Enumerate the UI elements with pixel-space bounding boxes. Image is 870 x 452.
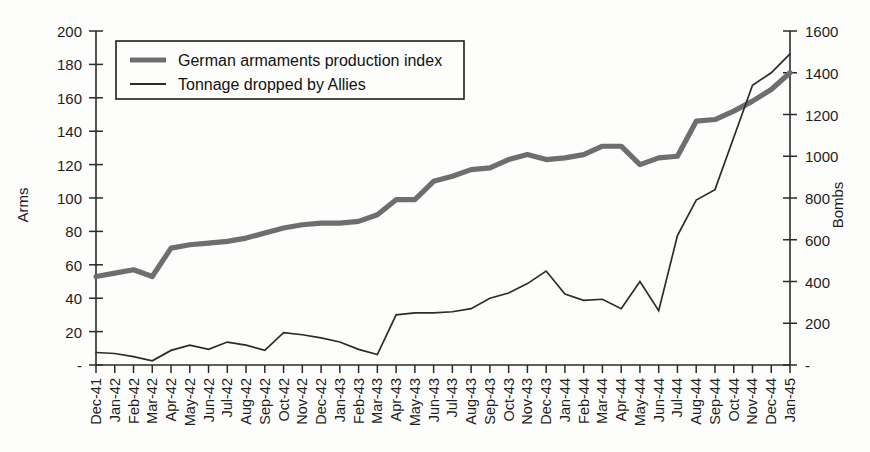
legend-label-bombs: Tonnage dropped by Allies	[178, 76, 366, 93]
legend-label-arms: German armaments production index	[178, 52, 442, 69]
y-tick-label-right: 1600	[805, 23, 838, 40]
y-tick-label-left: 100	[57, 190, 82, 207]
y-tick-label-left: 180	[57, 56, 82, 73]
x-tick-label: Aug-44	[688, 378, 704, 425]
x-tick-label: Jan-42	[107, 378, 123, 422]
x-tick-label: Mar-42	[144, 378, 160, 424]
x-tick-label: Nov-43	[519, 378, 535, 425]
series-lines	[96, 54, 790, 361]
x-tick-label: Jan-45	[782, 378, 798, 422]
y-tick-label-right: 200	[805, 315, 830, 332]
y-tick-label-left: 60	[65, 257, 82, 274]
x-tick-label: Sep-43	[482, 378, 498, 425]
x-tick-label: May-43	[407, 378, 423, 426]
x-tick-label: Feb-43	[351, 378, 367, 424]
x-tick-label: Jun-42	[201, 378, 217, 422]
x-tick-label: May-44	[632, 378, 648, 426]
x-tick-label: Nov-44	[744, 378, 760, 425]
y-tick-label-right: 1000	[805, 148, 838, 165]
series-line-arms	[96, 73, 790, 277]
x-tick-label: Dec-43	[538, 378, 554, 425]
x-tick-label: Jul-42	[219, 378, 235, 418]
y-tick-label-left: 160	[57, 90, 82, 107]
y-tick-label-left: 140	[57, 123, 82, 140]
x-tick-label: Oct-42	[276, 378, 292, 422]
x-tick-label: Apr-44	[613, 378, 629, 422]
x-tick-label: Sep-44	[707, 378, 723, 425]
chart-page: -20406080100120140160180200 -20040060080…	[0, 0, 870, 452]
x-tick-label: Jul-43	[444, 378, 460, 418]
x-tick-label: Dec-42	[313, 378, 329, 425]
x-tick-label: Apr-43	[388, 378, 404, 422]
x-tick-label: Jul-44	[669, 378, 685, 418]
y-tick-label-left: 120	[57, 157, 82, 174]
y-axis-label-left: Arms	[14, 188, 31, 223]
y-tick-label-right: 1400	[805, 65, 838, 82]
y-tick-label-right: 400	[805, 274, 830, 291]
y-tick-label-right: 600	[805, 232, 830, 249]
dual-axis-line-chart: -20406080100120140160180200 -20040060080…	[0, 0, 870, 452]
chart-legend: German armaments production index Tonnag…	[116, 41, 464, 99]
series-line-bombs	[96, 54, 790, 361]
x-tick-label: Oct-44	[726, 378, 742, 422]
x-tick-label: Mar-43	[369, 378, 385, 424]
x-tick-label: Nov-42	[294, 378, 310, 425]
x-tick-label: Dec-41	[88, 378, 104, 425]
x-tick-label: Jan-44	[557, 378, 573, 422]
x-tick-label: Sep-42	[257, 378, 273, 425]
x-tick-label: Feb-44	[576, 378, 592, 424]
x-tick-label: Jun-43	[426, 378, 442, 422]
x-tick-label: Aug-43	[463, 378, 479, 425]
y-tick-label-left: -	[77, 357, 82, 374]
x-tick-label: Jun-44	[651, 378, 667, 422]
y-tick-label-left: 40	[65, 290, 82, 307]
y-tick-label-right: -	[805, 357, 810, 374]
x-tick-label: Aug-42	[238, 378, 254, 425]
y-tick-label-left: 200	[57, 23, 82, 40]
x-axis: Dec-41Jan-42Feb-42Mar-42Apr-42May-42Jun-…	[88, 365, 798, 426]
y-tick-label-left: 80	[65, 223, 82, 240]
x-tick-label: May-42	[182, 378, 198, 426]
x-tick-label: Apr-42	[163, 378, 179, 422]
x-tick-label: Oct-43	[501, 378, 517, 422]
left-axis: -20406080100120140160180200	[57, 23, 103, 374]
y-tick-label-left: 20	[65, 324, 82, 341]
x-tick-label: Mar-44	[594, 378, 610, 424]
y-tick-label-right: 800	[805, 190, 830, 207]
y-tick-label-right: 1200	[805, 107, 838, 124]
x-tick-label: Jan-43	[332, 378, 348, 422]
x-tick-label: Feb-42	[126, 378, 142, 424]
y-axis-label-right: Bombs	[829, 182, 846, 229]
x-tick-label: Dec-44	[763, 378, 779, 425]
